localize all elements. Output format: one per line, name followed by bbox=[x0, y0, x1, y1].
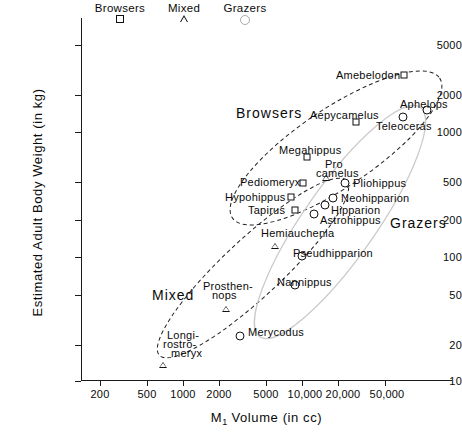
x-tick-mark bbox=[338, 380, 339, 386]
data-label-hemiauchenia: Hemiauchenia bbox=[261, 228, 334, 239]
y-tick-mark bbox=[75, 381, 81, 382]
cluster-label-browsers: Browsers bbox=[236, 105, 302, 121]
data-point-tapirus[interactable] bbox=[292, 207, 299, 214]
data-point-hemiauchenia[interactable] bbox=[271, 243, 279, 249]
y-tick-mark bbox=[75, 132, 81, 133]
y-tick-label: 10 bbox=[402, 375, 462, 387]
x-tick-mark bbox=[385, 380, 386, 386]
data-point-hypohippus[interactable] bbox=[288, 194, 295, 201]
legend-item-mixed[interactable]: Mixed bbox=[158, 2, 210, 22]
x-tick-mark bbox=[147, 380, 148, 386]
data-label-hypohippus: Hypohippus bbox=[225, 192, 286, 203]
data-label-neohipparion: Neohipparion bbox=[341, 193, 409, 204]
x-tick-mark bbox=[100, 380, 101, 386]
data-label-prosthennops-line2: nops bbox=[212, 290, 237, 300]
x-axis-title-prefix: M bbox=[211, 410, 222, 425]
data-point-astrohippus[interactable] bbox=[310, 210, 319, 219]
x-axis-title-subscript: 1 bbox=[222, 417, 227, 427]
y-axis-title: Estimated Adult Body Weight (in kg) bbox=[30, 78, 45, 328]
x-tick-label: 5000 bbox=[253, 388, 278, 400]
y-tick-mark bbox=[75, 95, 81, 96]
y-tick-mark bbox=[75, 182, 81, 183]
data-label-astrohippus: Astrohippus bbox=[320, 215, 381, 226]
data-label-pseudhipparion: Pseudhipparion bbox=[293, 248, 373, 259]
x-tick-label: 20,000 bbox=[326, 388, 361, 400]
x-tick-label: 200 bbox=[91, 388, 110, 400]
data-point-neohipparion[interactable] bbox=[329, 194, 338, 203]
mixed-triangle-icon bbox=[180, 15, 188, 22]
x-tick-mark bbox=[266, 380, 267, 386]
legend: Browsers Mixed Grazers bbox=[84, 2, 314, 36]
legend-label-mixed: Mixed bbox=[158, 2, 210, 14]
y-tick-mark bbox=[75, 345, 81, 346]
legend-item-grazers[interactable]: Grazers bbox=[214, 2, 276, 25]
data-label-nannippus: Nannippus bbox=[277, 277, 332, 288]
y-tick-mark bbox=[75, 295, 81, 296]
x-tick-label: 2000 bbox=[206, 388, 231, 400]
data-point-prosthennops[interactable] bbox=[222, 306, 230, 312]
y-tick-label: 5000 bbox=[402, 39, 462, 51]
grazers-circle-icon bbox=[240, 15, 250, 25]
data-point-longirostromeryx[interactable] bbox=[159, 362, 167, 368]
legend-label-browsers: Browsers bbox=[84, 2, 156, 14]
legend-label-grazers: Grazers bbox=[214, 2, 276, 14]
browsers-square-icon bbox=[116, 15, 124, 23]
legend-item-browsers[interactable]: Browsers bbox=[84, 2, 156, 23]
y-tick-label: 20 bbox=[402, 339, 462, 351]
y-axis-line bbox=[81, 18, 82, 381]
data-label-pediomeryx: Pediomeryx bbox=[240, 177, 301, 188]
data-label-megahippus: Megahippus bbox=[279, 145, 341, 156]
x-tick-mark bbox=[302, 380, 303, 386]
x-tick-label: 10,000 bbox=[288, 388, 323, 400]
y-tick-mark bbox=[75, 257, 81, 258]
y-tick-mark bbox=[75, 45, 81, 46]
x-tick-mark bbox=[183, 380, 184, 386]
x-axis-title-suffix: Volume (in cc) bbox=[231, 410, 322, 425]
y-tick-label: 500 bbox=[402, 176, 462, 188]
y-tick-mark bbox=[75, 220, 81, 221]
x-tick-label: 500 bbox=[138, 388, 157, 400]
cluster-label-mixed: Mixed bbox=[152, 287, 194, 303]
x-tick-label: 1000 bbox=[170, 388, 195, 400]
data-point-pliohippus[interactable] bbox=[341, 179, 350, 188]
data-label-longirostromeryx-line3: meryx bbox=[171, 348, 202, 358]
data-label-aepycamelus: Aepycamelus bbox=[310, 110, 379, 121]
scatter-plot-figure: Browsers Mixed Grazers 5000 2000 1000 50… bbox=[0, 0, 462, 437]
data-label-aphelops: Aphelops bbox=[400, 99, 448, 110]
data-label-tapirus: Tapirus bbox=[248, 205, 285, 216]
y-tick-label: 100 bbox=[402, 251, 462, 263]
cluster-label-grazers: Grazers bbox=[390, 215, 447, 231]
x-axis-title: M1 Volume (in cc) bbox=[81, 410, 452, 427]
data-point-hipparion[interactable] bbox=[321, 201, 330, 210]
data-label-merycodus: Merycodus bbox=[248, 327, 304, 338]
data-label-teleoceras: Teleoceras bbox=[376, 121, 432, 132]
data-label-pliohippus: Pliohippus bbox=[353, 178, 406, 189]
data-point-merycodus[interactable] bbox=[236, 332, 245, 341]
y-tick-label: 50 bbox=[402, 289, 462, 301]
data-label-amebelodon: Amebelodon bbox=[336, 70, 400, 81]
x-tick-mark bbox=[219, 380, 220, 386]
data-point-amebelodon[interactable] bbox=[401, 72, 408, 79]
x-tick-label: 50,000 bbox=[370, 388, 405, 400]
